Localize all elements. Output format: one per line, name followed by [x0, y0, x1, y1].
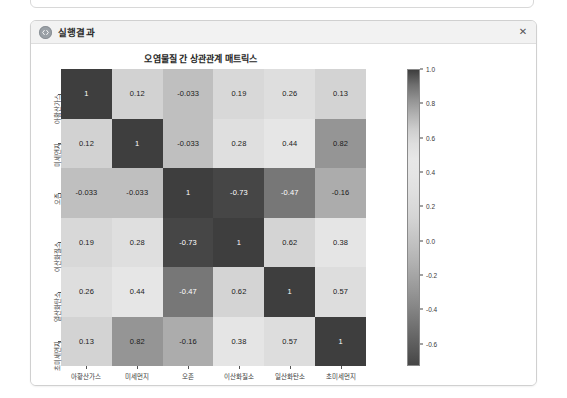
heatmap-cell: -0.033 [163, 69, 214, 119]
heatmap-cell: 0.82 [315, 119, 366, 169]
x-axis-tick-mark [290, 366, 291, 369]
heatmap-cell: -0.73 [213, 168, 264, 218]
result-window: 실행결과 ✕ 오염물질 간 상관관계 매트릭스 10.12-0.0330.190… [30, 20, 537, 386]
heatmap-cell: 0.12 [112, 69, 163, 119]
x-axis-tick-label: 아황산가스 [71, 371, 101, 381]
heatmap-cell: 0.57 [315, 267, 366, 317]
heatmap-cell: -0.033 [163, 119, 214, 169]
heatmap-figure: 오염물질 간 상관관계 매트릭스 10.12-0.0330.190.260.13… [31, 44, 537, 386]
heatmap-cell: 0.19 [213, 69, 264, 119]
colorbar-tick: -0.6 [420, 340, 437, 347]
heatmap-cell: 1 [112, 119, 163, 169]
heatmap-cell: 1 [61, 69, 112, 119]
heatmap-cell: -0.033 [61, 168, 112, 218]
colorbar-tick: 0.4 [420, 169, 435, 176]
colorbar-tick: -0.2 [420, 272, 437, 279]
window-title-bar: 실행결과 ✕ [31, 21, 536, 44]
heatmap-cell: 0.82 [112, 317, 163, 367]
heatmap-cell: 0.13 [315, 69, 366, 119]
heatmap-cell: 1 [213, 218, 264, 268]
heatmap-cell: 0.38 [315, 218, 366, 268]
code-circle-icon [39, 26, 52, 39]
heatmap-cell: 1 [163, 168, 214, 218]
heatmap-cell: 0.26 [61, 267, 112, 317]
window-title: 실행결과 [58, 25, 95, 39]
heatmap-cell: -0.033 [112, 168, 163, 218]
heatmap-cell: 0.62 [213, 267, 264, 317]
heatmap-cell: 0.57 [264, 317, 315, 367]
colorbar-tick: -0.4 [420, 306, 437, 313]
x-axis-tick-mark [137, 366, 138, 369]
heatmap-cell: -0.73 [163, 218, 214, 268]
heatmap-cell: 0.26 [264, 69, 315, 119]
window-body: 오염물질 간 상관관계 매트릭스 10.12-0.0330.190.260.13… [31, 44, 536, 386]
heatmap-cell: 0.13 [61, 317, 112, 367]
heatmap-cell: 0.44 [112, 267, 163, 317]
colorbar-tick: 0.0 [420, 237, 435, 244]
truncated-panel-above [30, 0, 534, 8]
heatmap-axes: 10.12-0.0330.190.260.130.121-0.0330.280.… [61, 69, 366, 366]
heatmap-cell: 0.38 [213, 317, 264, 367]
x-axis-tick-mark [239, 366, 240, 369]
x-axis-tick-label: 오존 [182, 371, 194, 381]
heatmap-cell: 0.62 [264, 218, 315, 268]
heatmap-cell: 1 [315, 317, 366, 367]
colorbar-tick: 0.8 [420, 100, 435, 107]
heatmap-cell: -0.16 [163, 317, 214, 367]
x-axis-tick-label: 이산화질소 [224, 371, 254, 381]
x-axis-tick-label: 미세먼지 [125, 371, 149, 381]
y-axis-tick-mark [58, 292, 61, 293]
heatmap-cell: -0.47 [264, 168, 315, 218]
heatmap-cell: 0.28 [112, 218, 163, 268]
x-axis-tick-label: 일산화탄소 [275, 371, 305, 381]
heatmap-cell: 0.12 [61, 119, 112, 169]
colorbar-tick: 1.0 [420, 66, 435, 73]
colorbar-tick: 0.6 [420, 134, 435, 141]
y-axis-tick-mark [58, 341, 61, 342]
colorbar-tick: 0.2 [420, 203, 435, 210]
x-axis-tick-mark [341, 366, 342, 369]
heatmap-cells: 10.12-0.0330.190.260.130.121-0.0330.280.… [61, 69, 366, 366]
y-axis-tick-mark [58, 193, 61, 194]
heatmap-cell: -0.16 [315, 168, 366, 218]
close-icon[interactable]: ✕ [517, 26, 529, 38]
x-axis-tick-mark [188, 366, 189, 369]
x-axis-tick-label: 초미세먼지 [326, 371, 356, 381]
colorbar [407, 69, 420, 366]
heatmap-cell: 0.44 [264, 119, 315, 169]
chart-title: 오염물질 간 상관관계 매트릭스 [31, 52, 371, 65]
heatmap-cell: 0.28 [213, 119, 264, 169]
heatmap-cell: 1 [264, 267, 315, 317]
x-axis-tick-mark [86, 366, 87, 369]
y-axis-tick-mark [58, 94, 61, 95]
y-axis-tick-mark [58, 143, 61, 144]
y-axis-tick-mark [58, 242, 61, 243]
heatmap-cell: 0.19 [61, 218, 112, 268]
heatmap-cell: -0.47 [163, 267, 214, 317]
